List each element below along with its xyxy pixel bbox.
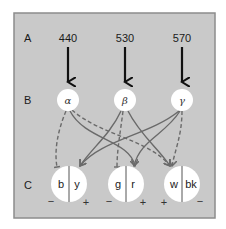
sign-plus: + (140, 196, 146, 208)
cone-gamma-symbol: γ (179, 95, 185, 106)
wavelength-570: 570 (173, 32, 191, 44)
cone-beta: β (114, 89, 136, 111)
channel-y-label: y (74, 178, 80, 190)
row-label-b: B (24, 94, 31, 106)
sign-minus: − (106, 195, 112, 207)
cone-beta-symbol: β (121, 95, 128, 106)
cone-gamma: γ (171, 89, 193, 111)
sign-minus: − (197, 195, 203, 207)
channel-bk-label: bk (185, 178, 197, 190)
row-label-a: A (24, 32, 32, 44)
sign-plus: + (161, 196, 167, 208)
wavelength-530: 530 (116, 32, 134, 44)
sign-minus: − (48, 195, 54, 207)
cone-alpha-symbol: α (65, 95, 72, 106)
wavelength-440: 440 (59, 32, 77, 44)
channel-g-label: g (115, 178, 121, 190)
channel-r-label: r (131, 178, 135, 190)
row-label-c: C (24, 179, 32, 191)
cone-alpha: α (57, 89, 79, 111)
sign-plus: + (83, 196, 89, 208)
opponent-process-diagram: A B C 440 530 570 α β γ (0, 0, 226, 229)
channel-w-label: w (169, 178, 178, 190)
channel-b-label: b (58, 178, 64, 190)
